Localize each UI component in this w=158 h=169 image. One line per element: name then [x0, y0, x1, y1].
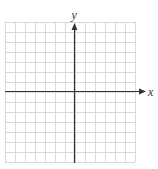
grid-lines	[5, 22, 136, 163]
y-axis-label: y	[71, 8, 78, 22]
y-axis-arrow-icon	[72, 23, 78, 30]
x-axis-label: x	[147, 85, 154, 99]
coordinate-plane: x y	[0, 0, 158, 169]
x-axis-arrow-icon	[139, 89, 146, 95]
